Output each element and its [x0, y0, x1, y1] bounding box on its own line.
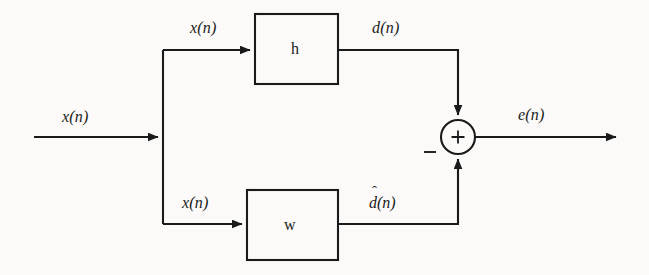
label-error-en: e(n) — [518, 106, 545, 124]
estimate-signal-path — [338, 159, 458, 224]
label-estimate-dhat-n: ˆ d(n) — [369, 194, 396, 212]
diagram-canvas — [0, 0, 649, 275]
label-input-xn: x(n) — [62, 108, 89, 126]
desired-signal-path — [338, 50, 458, 115]
block-diagram-figure: x(n) x(n) x(n) d(n) ˆ d(n) e(n) h w — [0, 0, 649, 275]
label-top-branch-xn: x(n) — [190, 19, 217, 37]
block-w-label: w — [284, 216, 296, 234]
label-bottom-branch-xn: x(n) — [182, 194, 209, 212]
hat-accent-icon: ˆ — [372, 184, 377, 199]
block-h-label: h — [291, 40, 299, 58]
label-desired-dn: d(n) — [372, 19, 399, 37]
